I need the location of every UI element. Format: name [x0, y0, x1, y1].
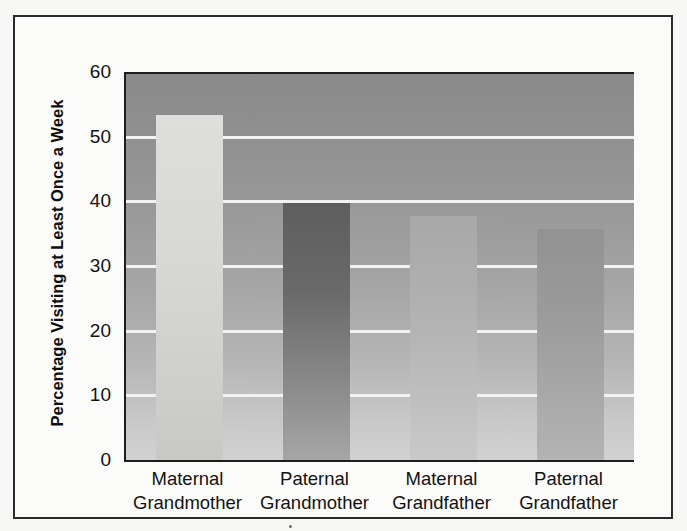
x-axis-label: MaternalGrandmother: [133, 467, 242, 515]
y-tick-label: 20: [90, 320, 111, 342]
x-axis-label: PaternalGrandfather: [519, 467, 618, 515]
x-axis-label-line1: Paternal: [534, 468, 603, 489]
x-axis-label-line2: Grandfather: [392, 491, 491, 515]
y-tick-label: 30: [90, 255, 111, 277]
plot-top-rule: [126, 72, 634, 74]
x-axis-label-line1: Maternal: [406, 468, 478, 489]
y-tick-label: 60: [90, 61, 111, 83]
y-tick-label: 10: [90, 384, 111, 406]
y-tick-label: 50: [90, 126, 111, 148]
scan-artifact-speck: [289, 525, 292, 528]
plot-area: [124, 72, 634, 462]
bar: [156, 115, 223, 460]
y-tick-label: 40: [90, 190, 111, 212]
y-axis-ticks: 0102030405060: [75, 72, 119, 460]
x-axis-label: MaternalGrandfather: [392, 467, 491, 515]
y-axis-title: Percentage Visiting at Least Once a Week: [45, 67, 69, 459]
x-axis-label-line2: Grandmother: [133, 491, 242, 515]
x-axis-label-line2: Grandfather: [519, 491, 618, 515]
y-tick-label: 0: [100, 449, 111, 471]
x-axis-labels: MaternalGrandmotherPaternalGrandmotherMa…: [124, 467, 632, 527]
bar: [283, 203, 350, 460]
x-axis-label-line1: Maternal: [152, 468, 224, 489]
bar: [537, 229, 604, 461]
x-axis-label-line2: Grandmother: [260, 491, 369, 515]
figure-border: Percentage Visiting at Least Once a Week…: [13, 15, 673, 519]
bar: [410, 216, 477, 460]
x-axis-label-line1: Paternal: [280, 468, 349, 489]
y-axis-title-text: Percentage Visiting at Least Once a Week: [48, 100, 67, 427]
figure-root: Percentage Visiting at Least Once a Week…: [0, 0, 687, 531]
x-axis-label: PaternalGrandmother: [260, 467, 369, 515]
